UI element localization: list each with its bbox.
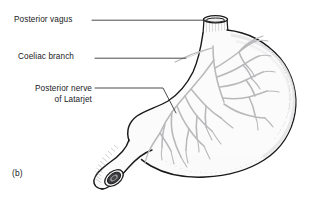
figure-caption: (b) xyxy=(12,168,23,179)
label-coeliac-branch: Coeliac branch xyxy=(18,52,74,63)
esophagus-lumen xyxy=(206,18,224,22)
label-latarjet-line2: of Latarjet xyxy=(54,95,92,104)
anatomical-figure: Posterior vagus Coeliac branch Posterior… xyxy=(0,0,310,200)
label-latarjet-line1: Posterior nerve xyxy=(35,84,92,93)
label-posterior-nerve-of-latarjet: Posterior nerve of Latarjet xyxy=(14,84,92,105)
stomach-body xyxy=(128,30,296,177)
label-posterior-vagus: Posterior vagus xyxy=(14,15,72,26)
